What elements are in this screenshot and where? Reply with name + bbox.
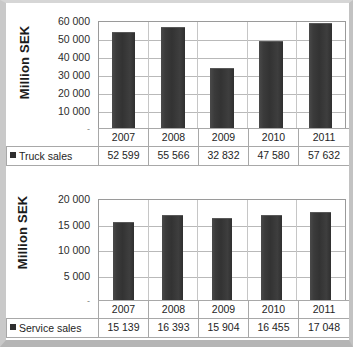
- bar: [212, 218, 233, 300]
- legend-swatch-icon: [10, 152, 16, 158]
- series-label: Truck sales: [19, 150, 72, 162]
- table-row: 20072008200920102011: [7, 301, 350, 319]
- value-cell: 16 455: [249, 319, 299, 338]
- category-divider: [247, 22, 248, 128]
- category-header-cell: 2009: [199, 301, 249, 319]
- service-sales-chart: Million SEK -5 00010 00015 00020 000 200…: [6, 183, 349, 339]
- category-header-cell: 2010: [249, 301, 299, 319]
- y-axis-tick-label: 10 000: [58, 244, 90, 256]
- bar: [112, 32, 136, 128]
- category-header-cell: 2007: [99, 129, 149, 147]
- category-header-cell: 2009: [199, 129, 249, 147]
- bar: [309, 23, 333, 128]
- value-cell: 17 048: [299, 319, 350, 338]
- value-cell: 55 566: [149, 147, 199, 166]
- category-divider: [296, 22, 297, 128]
- y-axis-tick-label: 5 000: [64, 270, 90, 282]
- truck-sales-chart: Million SEK -10 00020 00030 00040 00050 …: [6, 7, 349, 167]
- y-axis-tick-label: 40 000: [58, 51, 90, 63]
- value-cell: 57 632: [299, 147, 350, 166]
- category-divider: [247, 200, 248, 300]
- bar: [261, 215, 282, 300]
- value-cell: 47 580: [249, 147, 299, 166]
- y-axis-tick-label: 20 000: [58, 87, 90, 99]
- category-divider: [148, 22, 149, 128]
- truck-sales-data-table: 20072008200920102011Truck sales52 59955 …: [6, 128, 350, 166]
- category-header-cell: 2010: [249, 129, 299, 147]
- table-row: Truck sales52 59955 56632 83247 58057 63…: [7, 147, 350, 166]
- plot-area: [98, 199, 346, 301]
- bar: [113, 222, 134, 300]
- y-axis-tick-label: 15 000: [58, 219, 90, 231]
- category-divider: [296, 200, 297, 300]
- category-header-cell: 2008: [149, 301, 199, 319]
- bar: [162, 215, 183, 300]
- bar: [259, 41, 283, 128]
- category-header-cell: 2011: [299, 129, 350, 147]
- y-axis-tick-labels: -10 00020 00030 00040 00050 00060 000: [6, 7, 94, 133]
- category-divider: [148, 200, 149, 300]
- category-divider: [197, 22, 198, 128]
- series-legend-cell: Service sales: [7, 319, 99, 338]
- bar: [161, 27, 185, 128]
- series-legend-cell: Truck sales: [7, 147, 99, 166]
- y-axis-tick-label: 50 000: [58, 33, 90, 45]
- category-header-cell: 2007: [99, 301, 149, 319]
- plot-area: [98, 21, 346, 129]
- table-row: Service sales15 13916 39315 90416 45517 …: [7, 319, 350, 338]
- category-header-cell: 2011: [299, 301, 350, 319]
- service-sales-data-table: 20072008200920102011Service sales15 1391…: [6, 300, 350, 338]
- category-divider: [197, 200, 198, 300]
- y-axis-tick-labels: -5 00010 00015 00020 000: [6, 183, 94, 303]
- category-header-cell: 2008: [149, 129, 199, 147]
- legend-swatch-icon: [10, 324, 16, 330]
- scanned-page: Million SEK -10 00020 00030 00040 00050 …: [0, 0, 353, 347]
- value-cell: 32 832: [199, 147, 249, 166]
- y-axis-tick-label: 10 000: [58, 105, 90, 117]
- y-axis-tick-label: 30 000: [58, 69, 90, 81]
- value-cell: 52 599: [99, 147, 149, 166]
- value-cell: 15 904: [199, 319, 249, 338]
- series-label: Service sales: [19, 322, 81, 334]
- table-corner-cell: [7, 301, 99, 319]
- bar: [210, 68, 234, 128]
- bar: [310, 212, 331, 300]
- y-axis-tick-label: 60 000: [58, 15, 90, 27]
- value-cell: 15 139: [99, 319, 149, 338]
- table-row: 20072008200920102011: [7, 129, 350, 147]
- value-cell: 16 393: [149, 319, 199, 338]
- table-corner-cell: [7, 129, 99, 147]
- y-axis-tick-label: 20 000: [58, 193, 90, 205]
